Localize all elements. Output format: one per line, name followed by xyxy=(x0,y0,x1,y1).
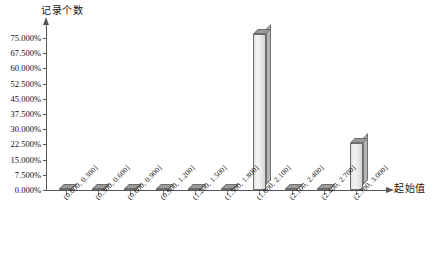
y-axis-tick-label: 67.500% xyxy=(11,49,41,58)
y-axis-tick-label: 60.000% xyxy=(11,64,41,73)
y-axis-tick-label: 52.500% xyxy=(11,79,41,88)
plot-area xyxy=(46,24,386,190)
y-axis-tick-label: 7.500% xyxy=(15,170,41,179)
x-axis-arrow-icon xyxy=(386,187,394,193)
y-axis-tick-label: 30.000% xyxy=(11,125,41,134)
y-axis-tick-label: 75.000% xyxy=(11,34,41,43)
y-axis-tick-label: 37.500% xyxy=(11,110,41,119)
y-axis-title: 记录个数 xyxy=(41,2,83,17)
y-axis-tick-mark xyxy=(43,190,47,191)
y-axis-tick-label: 0.000% xyxy=(15,186,41,195)
y-axis-tick-label: 22.500% xyxy=(11,140,41,149)
y-axis-tick-labels: 0.000%7.500%15.000%22.500%30.000%37.500%… xyxy=(0,0,44,254)
x-axis-title: 起始值 xyxy=(394,180,426,195)
y-axis-tick-label: 15.000% xyxy=(11,155,41,164)
bar-side-face xyxy=(266,24,271,185)
bar-chart: 记录个数 起始值 0.000%7.500%15.000%22.500%30.00… xyxy=(0,0,433,254)
y-axis-tick-label: 45.000% xyxy=(11,94,41,103)
